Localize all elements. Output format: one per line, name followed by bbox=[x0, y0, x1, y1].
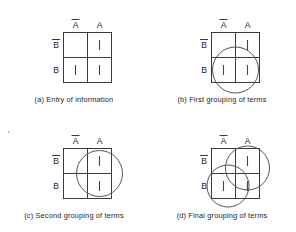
panel-d-caption: (d) Final grouping of terms bbox=[148, 211, 296, 220]
kmap-b-col-header-a: A bbox=[245, 20, 251, 30]
kmap-a-col-header-not-a: A bbox=[73, 20, 79, 30]
kmap-c-col-header-a: A bbox=[97, 136, 103, 146]
kmap-b-row-header-b: B bbox=[201, 65, 207, 75]
kmap-a-row-header-not-b: B bbox=[53, 40, 59, 50]
kmap-b-row-header-not-b: B bbox=[201, 40, 207, 50]
panel-a: A A B B (a) Entry of information bbox=[0, 0, 148, 116]
kmap-a-row-header-b: B bbox=[53, 65, 59, 75]
kmap-c-row-header-b: B bbox=[53, 181, 59, 191]
kmap-c-row-header-not-b: B bbox=[53, 156, 59, 166]
kmap-d-col-header-not-a: A bbox=[221, 136, 227, 146]
panel-a-caption: (a) Entry of information bbox=[0, 95, 148, 104]
panel-b-caption: (b) First grouping of terms bbox=[148, 95, 296, 104]
kmap-d-row-header-b: B bbox=[201, 181, 207, 191]
kmap-d-col-header-a: A bbox=[245, 136, 251, 146]
panel-c: A A B B (c) Second grouping of terms bbox=[0, 116, 148, 232]
karnaugh-map-figure: A A B B (a) Entry of information bbox=[0, 0, 296, 232]
panel-b: A A B B (b) First grouping of terms bbox=[148, 0, 296, 116]
kmap-a-col-header-a: A bbox=[97, 20, 103, 30]
kmap-b-col-header-not-a: A bbox=[221, 20, 227, 30]
kmap-d-grouping-circle-bottom-row bbox=[207, 165, 249, 207]
panel-c-caption: (c) Second grouping of terms bbox=[0, 211, 148, 220]
kmap-c-col-header-not-a: A bbox=[73, 136, 79, 146]
kmap-d-row-header-not-b: B bbox=[201, 156, 207, 166]
panel-d: A A B B (d) Final grouping of terms bbox=[148, 116, 296, 232]
